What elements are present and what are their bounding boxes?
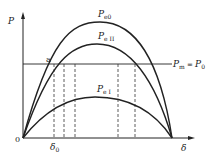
pe0-label: Pe0: [97, 9, 112, 20]
pm-p0-label: Pm = P0: [172, 59, 205, 70]
point-a-label: a: [46, 55, 51, 64]
x-axis-label: δ: [181, 143, 186, 153]
curve-peI: [23, 97, 172, 138]
y-axis-label: P: [7, 16, 15, 26]
x-axis-arrow-icon: [188, 136, 195, 140]
peI-label: Pe I: [96, 84, 112, 95]
power-angle-diagram: P δ 0 Pe0 Pe II Pe I Pm = P0 a δ0: [0, 0, 217, 155]
peII-label: Pe II: [97, 31, 115, 42]
y-axis-arrow-icon: [21, 12, 25, 19]
labels: P δ 0 Pe0 Pe II Pe I Pm = P0 a δ0: [7, 9, 205, 153]
origin-label: 0: [15, 135, 20, 144]
delta0-label: δ0: [50, 142, 59, 153]
